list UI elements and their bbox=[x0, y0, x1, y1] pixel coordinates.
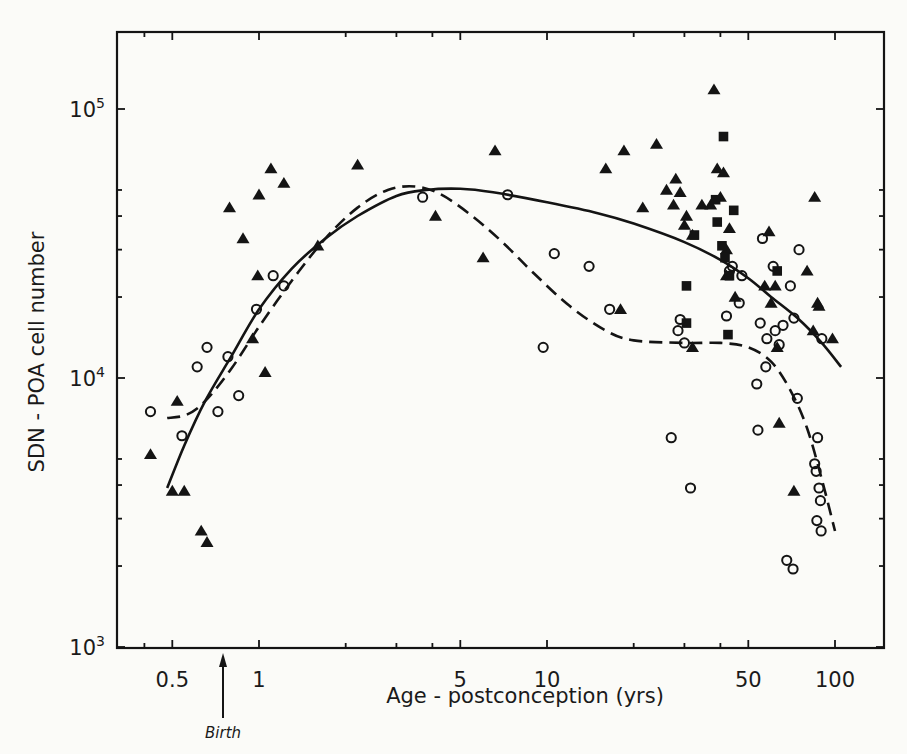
circle-point bbox=[761, 362, 770, 371]
triangle-point bbox=[617, 144, 630, 155]
x-tick-label: 0.5 bbox=[156, 668, 189, 692]
circle-point bbox=[758, 234, 767, 243]
birth-annotation: Birth bbox=[205, 653, 241, 742]
dashed-fit-curve bbox=[167, 186, 835, 531]
triangle-point bbox=[707, 83, 720, 94]
triangle-point bbox=[771, 341, 784, 352]
triangle-point bbox=[660, 184, 673, 195]
triangle-point bbox=[667, 199, 680, 210]
triangle-point bbox=[144, 448, 157, 459]
circle-point bbox=[550, 249, 559, 258]
birth-label: Birth bbox=[205, 724, 241, 742]
fit-curves bbox=[167, 186, 841, 531]
triangle-point bbox=[489, 144, 502, 155]
triangle-point bbox=[674, 186, 687, 197]
circle-point bbox=[202, 343, 211, 352]
square-point bbox=[719, 132, 729, 142]
circle-point bbox=[816, 496, 825, 505]
triangle-point bbox=[429, 210, 442, 221]
circle-point bbox=[788, 564, 797, 573]
triangle-point bbox=[251, 270, 264, 281]
triangle-point bbox=[237, 232, 250, 243]
plot-border bbox=[117, 32, 884, 648]
circle-point bbox=[753, 426, 762, 435]
triangle-point bbox=[636, 201, 649, 212]
triangle-point bbox=[669, 173, 682, 184]
circle-point bbox=[762, 334, 771, 343]
x-tick-label: 50 bbox=[735, 668, 762, 692]
circle-point bbox=[686, 483, 695, 492]
circle-point bbox=[605, 305, 614, 314]
triangle-point bbox=[252, 189, 265, 200]
circle-point bbox=[778, 321, 787, 330]
triangle-point bbox=[223, 201, 236, 212]
triangle-point bbox=[758, 280, 771, 291]
circle-point bbox=[234, 391, 243, 400]
circle-point bbox=[673, 326, 682, 335]
square-point bbox=[690, 230, 700, 240]
axis-ticks: 0.5151050100103104105 bbox=[69, 32, 884, 692]
triangle-point bbox=[195, 525, 208, 536]
circle-point bbox=[667, 433, 676, 442]
triangle-point bbox=[171, 395, 184, 406]
circle-point bbox=[794, 245, 803, 254]
square-point bbox=[712, 217, 722, 227]
triangle-point bbox=[259, 366, 272, 377]
circle-point bbox=[213, 407, 222, 416]
square-point bbox=[729, 206, 739, 216]
triangle-point bbox=[787, 485, 800, 496]
x-tick-label: 100 bbox=[815, 668, 855, 692]
triangles-series bbox=[144, 83, 839, 547]
circle-point bbox=[193, 362, 202, 371]
y-tick-label: 104 bbox=[69, 364, 105, 391]
square-point bbox=[717, 241, 727, 251]
circle-point bbox=[752, 379, 761, 388]
circle-point bbox=[786, 281, 795, 290]
triangle-point bbox=[264, 162, 277, 173]
circle-point bbox=[812, 516, 821, 525]
triangle-point bbox=[277, 177, 290, 188]
triangle-point bbox=[808, 191, 821, 202]
x-axis-title: Age - postconception (yrs) bbox=[386, 684, 664, 708]
axis-labels: Age - postconception (yrs) SDN - POA cel… bbox=[25, 231, 664, 742]
circle-point bbox=[817, 526, 826, 535]
circle-point bbox=[756, 318, 765, 327]
triangle-point bbox=[650, 138, 663, 149]
circle-point bbox=[813, 433, 822, 442]
chart: 0.5151050100103104105 Age - postconcepti… bbox=[0, 0, 907, 754]
triangle-point bbox=[801, 265, 814, 276]
circle-point bbox=[584, 262, 593, 271]
birth-arrowhead-icon bbox=[219, 653, 227, 667]
circle-point bbox=[539, 343, 548, 352]
circle-point bbox=[269, 271, 278, 280]
circle-point bbox=[418, 193, 427, 202]
triangle-point bbox=[599, 162, 612, 173]
triangle-point bbox=[723, 222, 736, 233]
triangle-point bbox=[351, 159, 364, 170]
circle-point bbox=[782, 556, 791, 565]
square-point bbox=[682, 281, 692, 291]
solid-fit-curve bbox=[167, 189, 841, 488]
triangle-point bbox=[201, 536, 214, 547]
triangle-point bbox=[477, 252, 490, 263]
triangle-point bbox=[826, 332, 839, 343]
x-tick-label: 1 bbox=[252, 668, 265, 692]
triangle-point bbox=[614, 303, 627, 314]
triangle-point bbox=[246, 332, 259, 343]
circle-point bbox=[722, 311, 731, 320]
triangle-point bbox=[680, 210, 693, 221]
square-point bbox=[723, 330, 733, 340]
plot-frame bbox=[117, 32, 884, 648]
y-tick-label: 105 bbox=[69, 95, 105, 122]
triangle-point bbox=[178, 485, 191, 496]
y-tick-label: 103 bbox=[69, 633, 105, 660]
circle-point bbox=[146, 407, 155, 416]
square-point bbox=[720, 253, 730, 263]
y-axis-title: SDN - POA cell number bbox=[25, 231, 49, 472]
circle-point bbox=[177, 431, 186, 440]
square-point bbox=[711, 195, 721, 205]
triangle-point bbox=[769, 280, 782, 291]
triangle-point bbox=[773, 417, 786, 428]
circle-point bbox=[814, 483, 823, 492]
